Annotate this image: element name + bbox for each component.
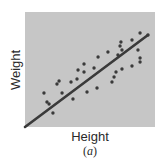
data-point: [85, 90, 88, 93]
data-point: [120, 67, 123, 70]
data-point: [82, 62, 85, 65]
data-point: [112, 75, 115, 78]
trend-line-path: [25, 35, 148, 127]
x-axis-label: Height: [71, 129, 109, 144]
data-point: [138, 60, 141, 63]
data-point: [146, 33, 149, 36]
figure-caption: (a): [83, 144, 97, 159]
data-point: [60, 91, 63, 94]
data-point: [82, 70, 85, 73]
data-point: [75, 77, 78, 80]
data-point: [136, 48, 139, 51]
data-point: [130, 38, 133, 41]
data-point: [76, 68, 79, 71]
data-point: [69, 80, 72, 83]
data-point: [92, 66, 95, 69]
scatter-plot-area: [25, 12, 155, 127]
data-point: [42, 91, 45, 94]
data-point: [106, 50, 109, 53]
data-point: [96, 55, 99, 58]
data-point: [51, 111, 54, 114]
data-point: [116, 53, 119, 56]
data-point: [55, 82, 58, 85]
data-point: [130, 64, 133, 67]
data-point: [57, 79, 60, 82]
data-point: [71, 97, 74, 100]
data-point: [138, 31, 141, 34]
data-point: [138, 56, 141, 59]
data-point: [110, 80, 113, 83]
y-axis-label: Weight: [8, 50, 23, 90]
trend-line: [25, 35, 148, 127]
data-point: [47, 102, 50, 105]
scatter-plot-svg: [25, 12, 155, 127]
data-point: [118, 44, 121, 47]
data-point: [119, 40, 122, 43]
data-point: [95, 86, 98, 89]
data-point: [114, 70, 117, 73]
data-point: [120, 48, 123, 51]
